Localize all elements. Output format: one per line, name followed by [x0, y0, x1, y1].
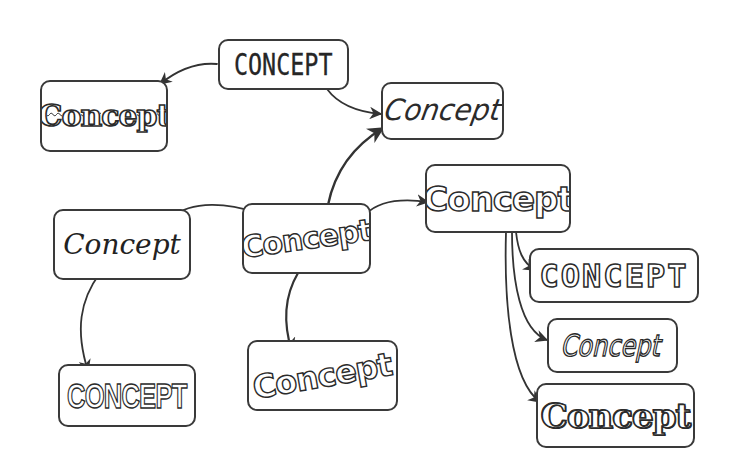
concept-node-arched-bubble[interactable]: Concept — [242, 203, 371, 274]
node-label: Concept — [382, 96, 503, 125]
concept-node-geometric[interactable]: CONCEPT — [218, 39, 349, 90]
node-label: Concept — [63, 231, 181, 259]
node-label: CONCEPT — [540, 260, 689, 292]
arrow-n6-to-n3 — [328, 128, 383, 205]
concept-node-block-caps[interactable]: CONCEPT — [529, 248, 699, 303]
concept-node-inline-caps[interactable]: CONCEPT — [58, 364, 196, 427]
node-label: CONCEPT — [234, 50, 333, 80]
arrow-n5-to-n10 — [81, 273, 100, 371]
concept-node-script[interactable]: Concept — [53, 209, 191, 280]
concept-map-diagram: CONCEPT Concept Concept Concept Concept … — [0, 0, 736, 476]
concept-node-bubble[interactable]: Concept — [425, 164, 571, 233]
node-label: Concept — [560, 331, 666, 361]
arrow-n1-to-n3 — [327, 89, 381, 114]
node-label: CONCEPT — [67, 378, 187, 413]
node-label: Concept — [541, 399, 690, 433]
concept-node-slanted[interactable]: Concept — [547, 318, 678, 373]
concept-node-angular[interactable]: Concept — [381, 82, 504, 140]
node-label: Concept — [425, 182, 571, 216]
node-label: Concept — [251, 348, 395, 404]
node-label: Concept — [242, 215, 371, 263]
arrow-n6-to-n4 — [366, 201, 428, 215]
concept-node-arched-outline[interactable]: Concept — [247, 340, 398, 411]
arrow-n1-to-n2 — [160, 64, 217, 84]
concept-node-spiky[interactable]: Concept — [536, 383, 695, 448]
concept-node-wavy[interactable]: Concept — [40, 80, 168, 152]
node-label: Concept — [40, 101, 168, 131]
